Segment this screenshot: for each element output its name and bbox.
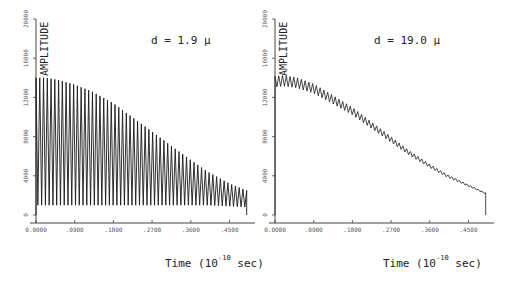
x-tick-label: .3600 xyxy=(182,226,200,233)
x-title-prefix: Time (10 xyxy=(165,257,218,270)
y-tick-label: 4000 xyxy=(261,168,268,183)
y-tick-label: 16000 xyxy=(261,49,268,67)
plot-area-left: 0400080001200016000200000.0000.0900.1800… xyxy=(0,0,258,284)
y-tick-label: 12000 xyxy=(22,88,29,106)
chart-panel-right: 0400080001200016000200000.0000.0900.1800… xyxy=(239,0,497,284)
x-tick-label: .1800 xyxy=(104,226,122,233)
x-tick-label: .4500 xyxy=(220,226,238,233)
x-axis-title-right: Time (10-10 sec) xyxy=(383,256,482,270)
x-title-suffix: sec) xyxy=(455,257,482,270)
y-tick-label: 0 xyxy=(261,213,268,217)
y-tick-label: 16000 xyxy=(22,49,29,67)
x-title-exponent: -10 xyxy=(218,254,231,262)
x-title-prefix: Time (10 xyxy=(383,257,436,270)
y-axis-title: AMPLITUDE xyxy=(278,22,289,76)
waveform-series xyxy=(275,75,486,215)
x-tick-label: .2700 xyxy=(382,226,400,233)
waveform-series xyxy=(36,78,247,215)
y-tick-label: 4000 xyxy=(22,168,29,183)
y-tick-label: 0 xyxy=(22,213,29,217)
x-tick-label: 0.0000 xyxy=(264,226,286,233)
y-tick-label: 8000 xyxy=(261,129,268,144)
annotation-d-19-0: d = 19.0 μ xyxy=(374,34,440,47)
x-tick-label: .4500 xyxy=(459,226,477,233)
x-tick-label: .3600 xyxy=(421,226,439,233)
x-tick-label: 0.0000 xyxy=(25,226,47,233)
annotation-d-1-9: d = 1.9 μ xyxy=(151,34,211,47)
chart-panel-left: 0400080001200016000200000.0000.0900.1800… xyxy=(0,0,258,284)
x-tick-label: .2700 xyxy=(143,226,161,233)
x-title-exponent: -10 xyxy=(436,254,449,262)
x-tick-label: .0900 xyxy=(66,226,84,233)
y-tick-label: 8000 xyxy=(22,129,29,144)
y-tick-label: 20000 xyxy=(22,10,29,28)
x-tick-label: .1800 xyxy=(343,226,361,233)
y-tick-label: 12000 xyxy=(261,88,268,106)
x-tick-label: .0900 xyxy=(305,226,323,233)
y-axis-title: AMPLITUDE xyxy=(39,22,50,76)
y-tick-label: 20000 xyxy=(261,10,268,28)
